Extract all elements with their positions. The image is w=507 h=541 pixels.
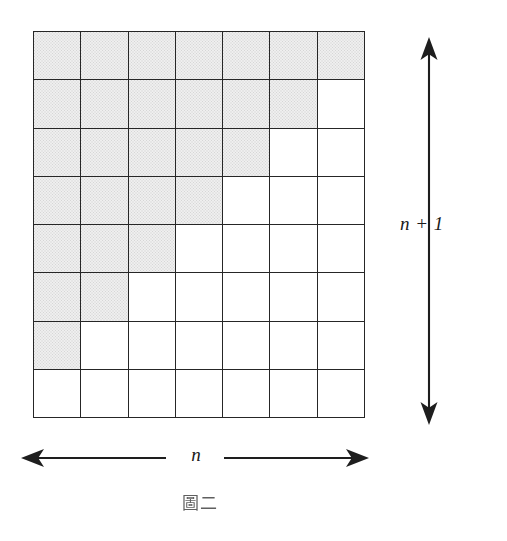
grid-cell-empty [223,369,270,417]
grid-cell-shaded [317,32,364,80]
grid-cell-shaded [128,225,175,273]
staircase-grid [33,31,365,418]
grid-cell-shaded [34,176,81,224]
grid-cell-shaded [81,225,128,273]
grid-cell-shaded [81,176,128,224]
grid-cell-empty [81,369,128,417]
grid-cell-shaded [128,176,175,224]
vertical-dimension-label: n + 1 [400,213,500,235]
grid-cell-empty [270,225,317,273]
grid-cell-empty [317,369,364,417]
grid-cell-empty [223,176,270,224]
grid-row [34,80,365,128]
grid-row [34,32,365,80]
grid-cell-empty [175,369,222,417]
grid-table [33,31,365,418]
figure-caption: 圖二 [0,489,400,514]
grid-body [34,32,365,418]
grid-cell-shaded [34,273,81,321]
grid-cell-shaded [34,80,81,128]
grid-cell-empty [128,321,175,369]
grid-cell-empty [270,273,317,321]
grid-cell-shaded [81,128,128,176]
grid-cell-empty [34,369,81,417]
grid-cell-shaded [175,80,222,128]
grid-cell-empty [317,273,364,321]
grid-cell-empty [317,321,364,369]
grid-cell-empty [223,225,270,273]
grid-cell-empty [317,225,364,273]
grid-cell-shaded [128,80,175,128]
grid-cell-empty [128,369,175,417]
grid-row [34,176,365,224]
grid-cell-shaded [34,321,81,369]
grid-cell-empty [223,321,270,369]
grid-cell-empty [317,128,364,176]
horizontal-dimension-label: n [171,444,221,466]
grid-cell-empty [175,321,222,369]
grid-cell-empty [128,273,175,321]
grid-cell-empty [270,176,317,224]
grid-row [34,128,365,176]
grid-cell-empty [317,80,364,128]
grid-cell-shaded [34,32,81,80]
grid-cell-empty [270,369,317,417]
grid-row [34,321,365,369]
grid-cell-empty [317,176,364,224]
grid-cell-empty [175,273,222,321]
grid-row [34,273,365,321]
grid-cell-shaded [270,80,317,128]
grid-cell-shaded [175,176,222,224]
grid-cell-shaded [81,32,128,80]
grid-cell-empty [223,273,270,321]
grid-cell-shaded [223,128,270,176]
grid-cell-empty [81,321,128,369]
grid-cell-shaded [34,225,81,273]
grid-cell-empty [175,225,222,273]
grid-cell-shaded [223,80,270,128]
grid-cell-shaded [34,128,81,176]
grid-cell-empty [270,321,317,369]
grid-cell-shaded [128,128,175,176]
grid-cell-shaded [175,128,222,176]
figure-container: n + 1 n 圖二 [0,0,507,541]
grid-cell-shaded [175,32,222,80]
grid-cell-shaded [270,32,317,80]
grid-cell-shaded [81,273,128,321]
grid-row [34,225,365,273]
grid-cell-shaded [81,80,128,128]
grid-row [34,369,365,417]
grid-cell-empty [270,128,317,176]
grid-cell-shaded [223,32,270,80]
grid-cell-shaded [128,32,175,80]
